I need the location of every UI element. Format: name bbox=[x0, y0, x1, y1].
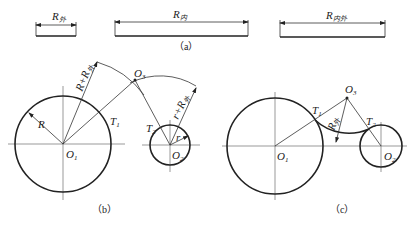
svg-text:O1: O1 bbox=[277, 150, 288, 164]
svg-text:R外: R外 bbox=[324, 114, 343, 134]
svg-text:O2: O2 bbox=[172, 149, 184, 163]
caption-c: （c） bbox=[330, 204, 354, 215]
svg-text:r: r bbox=[176, 131, 181, 143]
svg-text:T1: T1 bbox=[312, 104, 322, 118]
figure-a: R外 R内 R内外 （a） bbox=[36, 8, 385, 52]
svg-text:R内: R内 bbox=[172, 8, 188, 22]
svg-text:R+R外: R+R外 bbox=[72, 61, 96, 94]
dimension-bar-r-inner: R内 bbox=[115, 8, 248, 36]
dimension-bar-r-outer: R外 bbox=[36, 10, 76, 36]
svg-text:r+R外: r+R外 bbox=[169, 92, 193, 122]
caption-b: （b） bbox=[92, 204, 117, 215]
figure-c: O1 O2 O3 T1 T2 R外 （c） bbox=[222, 83, 407, 215]
svg-text:T2: T2 bbox=[146, 122, 156, 136]
caption-a: （a） bbox=[174, 41, 198, 52]
dimension-bar-r-inner-outer: R内外 bbox=[280, 9, 385, 37]
svg-text:O3: O3 bbox=[134, 67, 146, 81]
tangent-arc bbox=[315, 120, 369, 133]
tangent-arc-diagram: R外 R内 R内外 （a） bbox=[0, 0, 417, 226]
svg-text:R内外: R内外 bbox=[325, 9, 348, 23]
svg-text:O1: O1 bbox=[66, 148, 77, 162]
svg-text:R外: R外 bbox=[51, 10, 67, 24]
svg-text:T1: T1 bbox=[110, 115, 120, 129]
svg-text:O3: O3 bbox=[345, 83, 357, 97]
figure-b: O1 O2 O3 T1 T2 R r R+R外 r+R外 （b） bbox=[8, 61, 200, 215]
svg-text:R: R bbox=[37, 118, 45, 130]
svg-text:O2: O2 bbox=[384, 150, 396, 164]
svg-text:T2: T2 bbox=[366, 115, 376, 129]
